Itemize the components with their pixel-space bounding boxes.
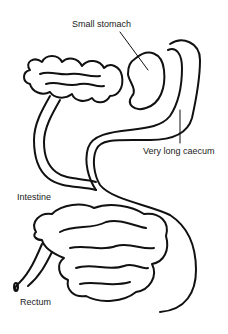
rectum-outline: [15, 244, 42, 290]
lower-intestine-inner-2: [70, 245, 154, 248]
rectum-inner: [28, 252, 52, 286]
lower-intestine-inner-1: [60, 221, 146, 232]
lower-intestine-inner-3: [76, 265, 148, 268]
intestine-label: Intestine: [17, 193, 51, 202]
lower-intestine-outline: [34, 205, 167, 301]
small-stomach-label: Small stomach: [72, 20, 131, 29]
lower-intestine-inner-4: [80, 282, 130, 284]
caecum-outline: [94, 41, 200, 312]
stomach-leader-line: [120, 32, 148, 70]
digestive-tract-drawing: [0, 0, 228, 334]
caecum-inner-outline: [86, 49, 182, 190]
very-long-caecum-label: Very long caecum: [143, 147, 215, 156]
rectum-label: Rectum: [20, 298, 51, 307]
upper-intestine-outline: [24, 56, 122, 102]
upper-intestine-inner: [40, 73, 104, 87]
stomach-outline: [128, 53, 164, 109]
